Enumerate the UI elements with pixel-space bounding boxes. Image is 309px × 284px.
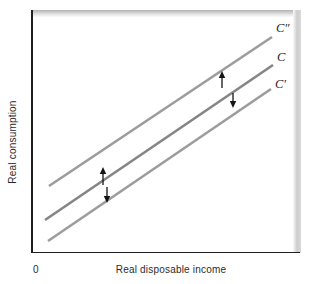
consumption-line-2 — [45, 65, 273, 220]
consumption-function-figure: Real consumption 0 Real disposable incom… — [0, 0, 309, 284]
line-label-1: C″ — [276, 21, 290, 36]
shift-arrow-up-3 — [219, 71, 225, 88]
line-label-3: C′ — [275, 77, 286, 92]
x-axis-label: Real disposable income — [116, 264, 227, 275]
origin-label: 0 — [33, 264, 39, 275]
y-axis-label: Real consumption — [7, 100, 18, 183]
line-label-2: C — [277, 50, 285, 65]
chart-svg — [0, 0, 309, 284]
arrow-head — [100, 167, 106, 174]
arrow-head — [230, 101, 236, 108]
